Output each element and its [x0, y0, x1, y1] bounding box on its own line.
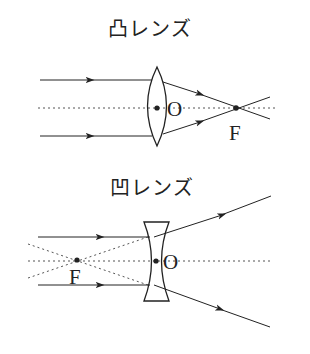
lens-diagram: O F O F	[0, 0, 310, 354]
lens-center-point	[154, 105, 159, 110]
concave-lens-diagram: O F	[28, 196, 272, 327]
focus-label: F	[69, 265, 81, 289]
refracted-ray-upper	[163, 82, 200, 94]
diverging-ray-upper	[154, 215, 222, 237]
focal-point	[74, 257, 79, 262]
center-label: O	[163, 250, 178, 274]
virtual-ray-upper	[28, 244, 148, 285]
focus-label: F	[229, 121, 241, 145]
focal-point	[233, 105, 239, 111]
convex-lens-diagram: O F	[38, 67, 278, 146]
refracted-ray-lower	[163, 122, 200, 134]
center-label: O	[167, 97, 182, 121]
lens-center-point	[153, 258, 158, 263]
virtual-ray-lower	[28, 237, 148, 278]
diverging-ray-lower	[154, 285, 220, 309]
